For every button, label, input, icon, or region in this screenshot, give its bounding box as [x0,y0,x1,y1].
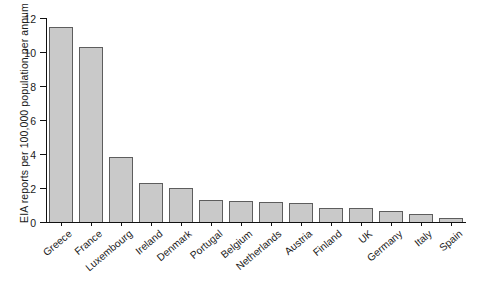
x-axis-label-portugal: Portugal [188,228,224,261]
y-tick-label: 12 [24,13,36,25]
bar-netherlands [259,202,283,222]
x-axis-label-greece: Greece [41,228,74,258]
x-axis-label-italy: Italy [413,228,435,249]
bar-luxembourg [109,157,133,222]
bar-uk [349,208,373,222]
x-tick-mark [301,222,302,226]
bar-greece [49,27,73,223]
x-tick-mark [211,222,212,226]
bar-ireland [139,183,163,222]
x-tick-mark [241,222,242,226]
x-tick-mark [361,222,362,226]
bar-finland [319,208,343,222]
x-tick-mark [331,222,332,226]
x-axis-line [46,222,466,223]
y-tick-label: 4 [30,149,36,161]
y-tick-mark: 10 [40,52,46,53]
bar-germany [379,211,403,222]
bar-italy [409,214,433,223]
y-tick-mark: 2 [40,188,46,189]
x-axis-label-finland: Finland [311,228,344,258]
y-tick-label: 8 [30,81,36,93]
x-axis-label-uk: UK [356,228,374,246]
x-tick-mark [271,222,272,226]
x-tick-mark [391,222,392,226]
bar-chart-figure: EIA reports per 100,000 population per a… [0,0,488,286]
x-tick-mark [421,222,422,226]
bar-spain [439,218,463,222]
x-tick-mark [61,222,62,226]
y-tick-mark: 6 [40,120,46,121]
y-tick-mark: 0 [40,222,46,223]
bar-france [79,47,103,222]
y-tick-mark: 12 [40,18,46,19]
x-tick-mark [121,222,122,226]
x-tick-mark [91,222,92,226]
y-tick-mark: 4 [40,154,46,155]
x-tick-mark [181,222,182,226]
x-tick-mark [151,222,152,226]
y-tick-label: 2 [30,183,36,195]
x-axis-label-spain: Spain [437,228,464,253]
y-tick-label: 0 [30,217,36,229]
bar-austria [289,203,313,222]
y-tick-label: 10 [24,47,36,59]
y-tick-mark: 8 [40,86,46,87]
x-axis-label-austria: Austria [282,228,314,257]
bar-denmark [169,188,193,222]
bar-belgium [229,201,253,222]
y-tick-label: 6 [30,115,36,127]
plot-area: 024681012 [46,18,466,222]
x-tick-mark [451,222,452,226]
bar-portugal [199,200,223,222]
